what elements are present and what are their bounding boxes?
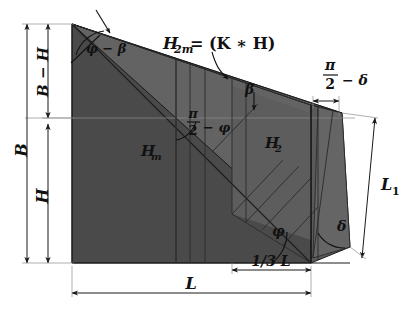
label-B-minus-H: B − H: [34, 46, 52, 98]
label-delta: δ: [336, 218, 346, 234]
label-pi-mid: π: [187, 106, 198, 121]
label-minus-delta: − δ: [342, 72, 368, 88]
label-pi2-minus-delta-group: π 2 − δ: [323, 57, 368, 92]
label-two-mid: 2: [188, 123, 197, 138]
label-h2m-rhs: = (K ∗ H): [190, 34, 275, 53]
label-two-right: 2: [325, 76, 335, 92]
leader-crest: [96, 10, 110, 33]
ext-L1-top: [342, 113, 378, 118]
geometry-diagram: B B − H H φ − β H 2m = (K ∗ H) β π 2 − δ: [0, 0, 407, 312]
label-phi: φ: [272, 223, 285, 239]
label-beta: β: [244, 81, 255, 97]
figure-root: B B − H H φ − β H 2m = (K ∗ H) β π 2 − δ: [0, 0, 407, 312]
label-h2m-group: H 2m = (K ∗ H): [162, 34, 275, 56]
label-phi-minus-beta: φ − β: [86, 41, 127, 56]
label-pi-top-right: π: [324, 57, 336, 73]
shaded-wedge-group: [72, 24, 350, 263]
dim-L1-line: [362, 118, 375, 258]
label-minus-phi: − φ: [203, 120, 230, 135]
delta-wedge-region: [313, 107, 350, 258]
label-l1-symbol: L: [380, 175, 392, 194]
label-one-third-L: 1/3 L: [251, 253, 290, 269]
h2-band-region: [232, 86, 311, 240]
label-L: L: [184, 274, 196, 293]
label-B: B: [12, 143, 31, 158]
label-hm-sub: m: [151, 151, 162, 162]
label-h2-sub: 2: [274, 143, 282, 154]
label-l1-sub: 1: [392, 185, 400, 198]
label-l1-group: L 1: [380, 175, 400, 198]
label-H: H: [33, 188, 52, 205]
ext-L1-bottom: [350, 247, 366, 259]
